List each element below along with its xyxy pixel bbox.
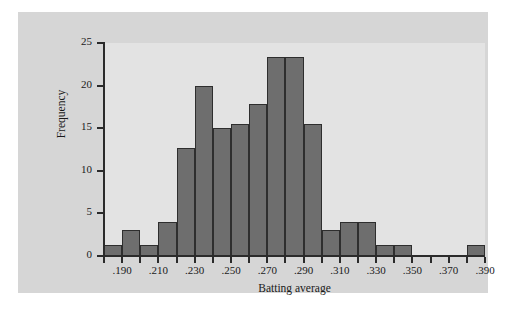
x-axis-title: Batting average (104, 282, 485, 294)
x-axis-minor-tick (393, 257, 395, 263)
x-axis-tick (375, 257, 377, 263)
histogram-bar (304, 124, 322, 256)
x-axis-tick (484, 257, 486, 263)
y-axis-tick (97, 170, 103, 172)
x-axis-tick (448, 257, 450, 263)
x-axis-minor-tick (357, 257, 359, 263)
x-axis-tick (303, 257, 305, 263)
y-axis-tick-label-text: 20 (66, 79, 92, 90)
y-axis-tick (97, 212, 103, 214)
y-axis-tick (97, 42, 103, 44)
y-axis-tick (97, 127, 103, 129)
y-axis-tick-label: 15 (66, 121, 92, 133)
x-axis-tick (230, 257, 232, 263)
x-axis-tick-label: .290 (286, 265, 322, 276)
x-axis-line (103, 255, 485, 257)
histogram-bar (322, 230, 340, 256)
x-axis-tick-label: .350 (394, 265, 430, 276)
x-axis-tick (411, 257, 413, 263)
x-axis-tick-label: .270 (249, 265, 285, 276)
x-axis-tick (194, 257, 196, 263)
x-axis-tick-label: .310 (322, 265, 358, 276)
x-axis-tick-label: .330 (358, 265, 394, 276)
y-axis-tick-label-text: 0 (66, 249, 92, 260)
x-axis-minor-tick (176, 257, 178, 263)
y-axis-tick-label: 20 (66, 79, 92, 91)
y-axis-tick-label: 5 (66, 206, 92, 218)
y-axis-tick-label: 10 (66, 164, 92, 176)
x-axis-tick (121, 257, 123, 263)
histogram-bar (231, 124, 249, 256)
x-axis-tick-label: .190 (104, 265, 140, 276)
histogram-bar (213, 128, 231, 256)
y-axis-tick-label: 25 (66, 36, 92, 48)
x-axis-minor-tick (321, 257, 323, 263)
x-axis-tick-label: .230 (177, 265, 213, 276)
x-axis-minor-tick (466, 257, 468, 263)
histogram-bar (195, 86, 213, 256)
histogram-bar (358, 222, 376, 256)
histogram-bar (122, 230, 140, 256)
x-axis-minor-tick (284, 257, 286, 263)
x-axis-minor-tick (103, 257, 105, 263)
histogram-bar (340, 222, 358, 256)
x-axis-tick (266, 257, 268, 263)
y-axis-tick-label-text: 5 (66, 206, 92, 217)
x-axis-minor-tick (139, 257, 141, 263)
x-axis-tick-label: .390 (467, 265, 503, 276)
histogram-bar (158, 222, 176, 256)
x-axis-tick (339, 257, 341, 263)
histogram-bar (267, 57, 285, 256)
histogram-bar (249, 104, 267, 256)
y-axis-tick-label-text: 15 (66, 121, 92, 132)
x-axis-tick-label: .210 (140, 265, 176, 276)
y-axis-tick (97, 85, 103, 87)
histogram-bar (177, 148, 195, 256)
y-axis-tick-label: 0 (66, 249, 92, 261)
x-axis-tick (157, 257, 159, 263)
x-axis-minor-tick (212, 257, 214, 263)
figure-panel: 0510152025 .190.210.230.250.270.290.310.… (18, 12, 488, 293)
x-axis-tick-label: .370 (431, 265, 467, 276)
y-axis-tick-label-text: 25 (66, 36, 92, 47)
x-axis-minor-tick (248, 257, 250, 263)
histogram-screenshot: 0510152025 .190.210.230.250.270.290.310.… (0, 0, 508, 309)
y-axis-title: Frequency (55, 69, 67, 159)
x-axis-minor-tick (430, 257, 432, 263)
x-axis-tick-label: .250 (213, 265, 249, 276)
y-axis-line (103, 42, 105, 257)
y-axis-tick-label-text: 10 (66, 164, 92, 175)
histogram-bar (285, 57, 303, 256)
